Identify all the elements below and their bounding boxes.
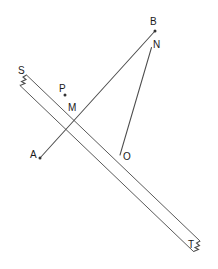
label-s: S	[18, 66, 25, 76]
band-lower-edge	[20, 86, 194, 252]
label-t: T	[188, 240, 194, 250]
point-a-dot	[39, 157, 42, 160]
break-mark-t-end	[194, 241, 201, 252]
label-a: A	[30, 150, 37, 160]
point-b-dot	[154, 30, 157, 33]
label-b: B	[150, 17, 157, 27]
label-p: P	[59, 84, 66, 94]
segment-n-to-o	[120, 48, 152, 156]
label-o: O	[123, 152, 131, 162]
geometry-canvas	[0, 0, 218, 269]
geometry-figure: S T A B N M O P	[0, 0, 218, 269]
band-upper-edge	[27, 75, 201, 241]
label-n: N	[153, 40, 160, 50]
label-m: M	[68, 103, 76, 113]
break-mark-s-end	[20, 75, 27, 86]
